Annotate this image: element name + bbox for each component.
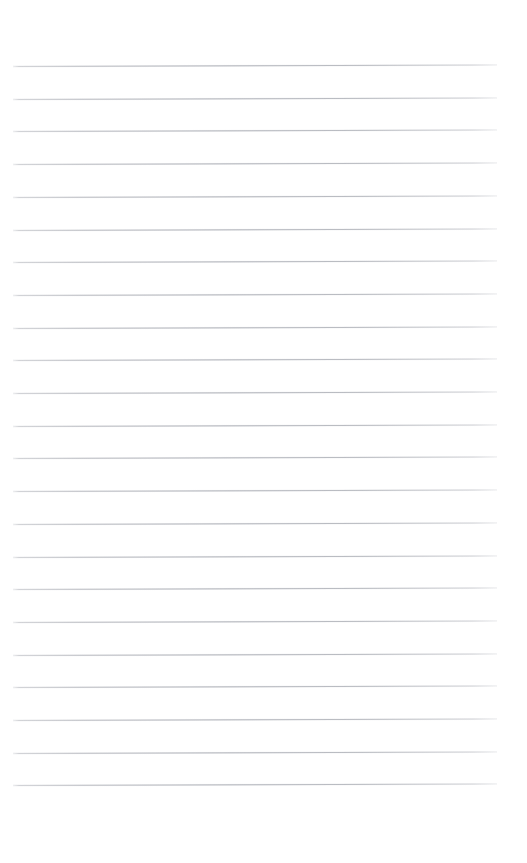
rule-line-23 — [13, 784, 497, 787]
rule-line-6 — [13, 228, 497, 231]
rule-line-2 — [13, 97, 497, 100]
notebook-page — [0, 0, 527, 863]
rule-line-13 — [13, 457, 497, 460]
rule-line-4 — [13, 163, 497, 166]
rule-line-15 — [13, 522, 497, 525]
rule-line-12 — [13, 424, 497, 427]
ruled-writing-area[interactable] — [0, 0, 527, 863]
rule-line-20 — [13, 686, 497, 689]
rule-line-14 — [13, 490, 497, 493]
rule-line-9 — [13, 326, 497, 329]
rule-line-8 — [13, 293, 497, 296]
rule-line-19 — [13, 653, 497, 656]
rule-line-3 — [13, 130, 497, 133]
rule-line-5 — [13, 195, 497, 198]
rule-line-21 — [13, 718, 497, 721]
rule-line-16 — [13, 555, 497, 558]
rule-line-7 — [13, 261, 497, 264]
rule-line-10 — [13, 359, 497, 362]
rule-line-22 — [13, 751, 497, 754]
rule-line-11 — [13, 391, 497, 394]
rule-line-17 — [13, 588, 497, 591]
rule-line-18 — [13, 620, 497, 623]
rule-line-1 — [13, 64, 497, 67]
